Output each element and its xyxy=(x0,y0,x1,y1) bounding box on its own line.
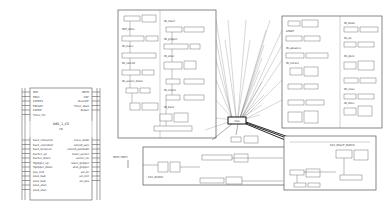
svg-text:Repair: Repair xyxy=(81,109,90,112)
svg-text:IN_advance: IN_advance xyxy=(286,47,301,50)
init-node[interactable]: INIT1 [INIT] xyxy=(113,156,128,168)
svg-text:pos4_shut: pos4_shut xyxy=(33,189,46,192)
svg-text:IN_shut: IN_shut xyxy=(164,55,174,58)
diagram-canvas: DB1_1_CS CB INIT PRE1 ESTOP1 PRESET ESTO… xyxy=(0,0,391,209)
svg-text:ESTOP1: ESTOP1 xyxy=(33,100,43,103)
svg-text:extend_jack: extend_jack xyxy=(73,144,89,147)
svg-text:INIT: INIT xyxy=(33,91,38,94)
svg-text:IN_move: IN_move xyxy=(122,45,134,48)
svg-text:IN_back: IN_back xyxy=(164,106,175,109)
svg-text:IN_done: IN_done xyxy=(344,102,355,105)
svg-text:IN_return: IN_return xyxy=(164,89,176,92)
svg-text:pos2_bad: pos2_bad xyxy=(33,180,46,183)
function-block[interactable]: DB1_1_CS CB INIT PRE1 ESTOP1 PRESET ESTO… xyxy=(22,88,100,200)
svg-text:PRE1: PRE1 xyxy=(33,96,40,99)
svg-text:PRESET: PRESET xyxy=(33,105,43,108)
svg-text:ECC_BLOCK: ECC_BLOCK xyxy=(148,176,164,179)
svg-text:IN_gripper: IN_gripper xyxy=(164,38,178,41)
svg-text:bucher_down: bucher_down xyxy=(33,157,51,160)
svg-text:IN_retract: IN_retract xyxy=(286,62,299,65)
svg-text:IN_close: IN_close xyxy=(344,88,355,91)
svg-text:extend_jackdisbt: extend_jackdisbt xyxy=(67,148,89,151)
svg-text:INITO: INITO xyxy=(82,91,89,94)
svg-text:flgripper_up: flgripper_up xyxy=(33,162,49,165)
svg-text:CS1: CS1 xyxy=(234,120,239,123)
svg-text:ECC_RIGHT_BLOCK: ECC_RIGHT_BLOCK xyxy=(330,144,355,147)
svg-text:sol_pos: sol_pos xyxy=(79,180,89,183)
svg-text:CNF: CNF xyxy=(84,96,90,99)
svg-text:lower_sucker: lower_sucker xyxy=(72,153,90,156)
svg-text:sol_on2: sol_on2 xyxy=(79,175,89,178)
svg-text:pos3_shut: pos3_shut xyxy=(33,184,46,187)
svg-text:pos_mid: pos_mid xyxy=(33,171,44,174)
svg-text:IN_extend: IN_extend xyxy=(122,62,135,65)
svg-text:back_between: back_between xyxy=(33,148,52,151)
block-name: DB1_1_CS xyxy=(53,122,69,126)
ecc-bottom-right[interactable]: ECC_RIGHT_BLOCK xyxy=(284,136,376,190)
svg-text:flgripper_down: flgripper_down xyxy=(33,166,53,169)
svg-text:shut_gripper: shut_gripper xyxy=(73,166,90,169)
ecc-left-panel[interactable]: INIT_done IN_move IN_extend IN_sucker_do… xyxy=(118,10,216,138)
svg-text:sol_on: sol_on xyxy=(81,171,90,174)
svg-text:IN_open: IN_open xyxy=(344,55,355,58)
svg-text:IN_up: IN_up xyxy=(344,37,352,40)
svg-text:INIT_done: INIT_done xyxy=(122,28,135,31)
svg-text:START: START xyxy=(286,30,294,33)
ecc-right-panel[interactable]: START IN_advance IN_retract IN_down IN_u… xyxy=(282,16,382,128)
svg-text:pos1_bad: pos1_bad xyxy=(33,175,46,178)
svg-text:move_disbt: move_disbt xyxy=(74,139,89,142)
svg-text:IN_sucker_down: IN_sucker_down xyxy=(122,80,143,83)
svg-text:back_retracted: back_retracted xyxy=(33,139,53,142)
svg-text:Timer_Start: Timer_Start xyxy=(74,105,89,108)
svg-text:INIT1 [INIT]: INIT1 [INIT] xyxy=(113,156,128,159)
svg-text:IN_down: IN_down xyxy=(344,22,355,25)
svg-text:ESTOP: ESTOP xyxy=(33,109,42,112)
svg-text:bucher_up: bucher_up xyxy=(33,153,47,156)
svg-text:sucker_on: sucker_on xyxy=(76,157,89,160)
block-type: CB xyxy=(59,128,63,131)
svg-text:ResetOF: ResetOF xyxy=(78,100,89,103)
connection-fan xyxy=(205,20,282,130)
svg-text:IN_lower: IN_lower xyxy=(164,20,176,23)
svg-text:Timer_Fin: Timer_Fin xyxy=(33,114,46,117)
svg-text:lower_gripper: lower_gripper xyxy=(71,162,90,165)
svg-text:back_extended: back_extended xyxy=(33,144,53,147)
ecc-bottom-center[interactable]: ECC_BLOCK xyxy=(143,147,285,185)
